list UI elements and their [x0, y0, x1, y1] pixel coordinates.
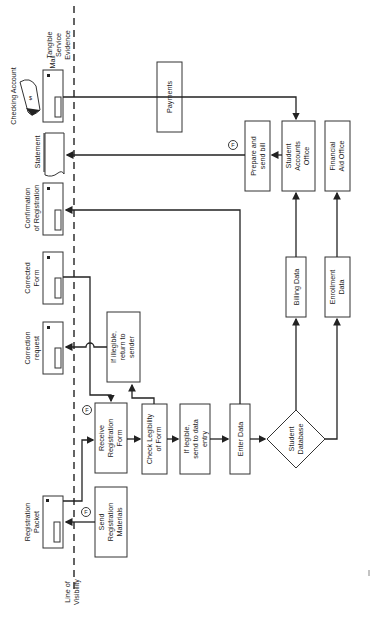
confirmation-label-1: Confirmation	[23, 188, 32, 229]
confirmation-envelope-icon	[43, 183, 63, 235]
confirmation-label-2: of Registration	[32, 185, 41, 231]
svg-text:Send: Send	[97, 514, 106, 531]
svg-text:If legible,: If legible,	[182, 425, 191, 454]
svg-text:Student: Student	[284, 144, 293, 169]
svg-text:of Form: of Form	[154, 427, 163, 452]
connector-illegible-to-request	[66, 343, 107, 347]
checking-account-icon: $	[20, 80, 40, 116]
svg-text:Evidence: Evidence	[63, 30, 72, 60]
registration-packet-label-1: Registration	[23, 503, 32, 541]
svg-text:Aid Office: Aid Office	[337, 140, 346, 171]
statement-document-icon	[44, 133, 64, 176]
svg-text:Visibility: Visibility	[72, 579, 81, 605]
svg-text:send to data: send to data	[191, 419, 200, 459]
connector-packet-to-receive	[63, 440, 93, 501]
fail-point-icon: F	[83, 406, 92, 415]
corrected-form-label-2: Form	[32, 270, 41, 287]
svg-text:entry: entry	[200, 431, 209, 447]
statement-label: Statement	[33, 136, 42, 169]
svg-text:Service: Service	[54, 33, 63, 57]
svg-text:Line of: Line of	[63, 581, 72, 603]
connector-enter-to-confirmation	[66, 210, 240, 404]
svg-text:Registration: Registration	[106, 503, 115, 541]
svg-text:Financial: Financial	[328, 141, 337, 170]
registration-packet-envelope-icon	[43, 496, 63, 548]
svg-text:Check Legibility: Check Legibility	[145, 413, 154, 464]
svg-text:Prepare and: Prepare and	[249, 136, 258, 176]
svg-text:Receive: Receive	[97, 425, 106, 451]
mail-label: Mail	[48, 55, 57, 69]
svg-text:Student: Student	[287, 427, 296, 452]
service-blueprint-diagram: Tangible Service Evidence Line of Visibi…	[0, 0, 370, 631]
fail-point-icon: F	[229, 141, 238, 150]
svg-text:sender: sender	[127, 335, 136, 358]
svg-text:Data: Data	[337, 279, 346, 294]
svg-text:If illegible,: If illegible,	[109, 331, 118, 363]
svg-text:Database: Database	[296, 424, 305, 455]
correction-request-label-1: Correction	[23, 331, 32, 364]
svg-text:Enrollment: Enrollment	[328, 270, 337, 304]
correction-request-label-2: request	[32, 336, 41, 360]
svg-text:Accounts: Accounts	[293, 141, 302, 171]
connector-db-to-enrollment	[325, 319, 337, 439]
corrected-form-label-1: Corrected	[23, 262, 32, 294]
fail-point-icon: F	[82, 508, 91, 517]
svg-text:send bill: send bill	[258, 142, 267, 169]
svg-text:Billing Data: Billing Data	[292, 269, 301, 305]
svg-text:return to: return to	[118, 334, 127, 361]
connector-corrected-to-receive	[63, 277, 111, 401]
correction-request-envelope-icon	[43, 322, 63, 374]
svg-text:Materials: Materials	[115, 507, 124, 537]
checking-account-label: Checking Account	[9, 67, 18, 125]
registration-packet-label-2: Packet	[32, 511, 41, 533]
svg-text:Registration: Registration	[106, 419, 115, 457]
svg-text:Form: Form	[115, 430, 124, 447]
mail-envelope-icon	[43, 70, 63, 122]
dollar-sign-icon: $	[29, 95, 32, 101]
lane-label-line-of-visibility: Line of Visibility	[63, 579, 81, 605]
svg-text:Enter Data: Enter Data	[236, 422, 245, 456]
connector-check-to-illegible	[132, 385, 154, 404]
lane-label-tangible-evidence: Tangible Service Evidence	[45, 30, 72, 60]
svg-text:Tangible: Tangible	[45, 32, 54, 59]
corrected-form-envelope-icon	[43, 252, 63, 304]
svg-text:Office: Office	[302, 147, 311, 166]
